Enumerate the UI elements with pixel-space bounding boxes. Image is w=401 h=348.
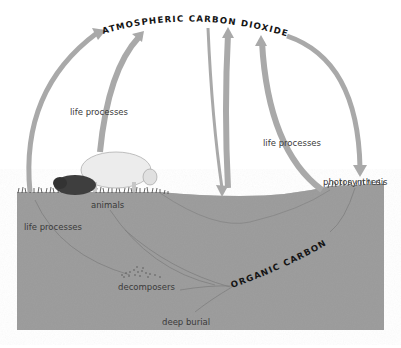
life-processes-label-top: life processes — [70, 107, 129, 117]
photosynthesis-label: photosynthesis — [323, 177, 388, 187]
arrow-to-photosynthesis — [287, 36, 360, 168]
arrow-up-3 — [262, 42, 322, 190]
deep-burial-label: deep burial — [162, 317, 210, 327]
arrow-down-1 — [208, 28, 222, 188]
carbon-cycle-diagram: ATMOSPHERIC CARBON DIOXIDE ORGANIC CARBO… — [0, 0, 401, 348]
animals-label: animals — [91, 200, 125, 210]
arrow-up-2 — [226, 34, 228, 188]
life-processes-label-ground: life processes — [24, 222, 83, 232]
life-processes-label-right: life processes — [263, 138, 322, 148]
decomposers-label: decomposers — [118, 282, 176, 292]
arrow-animals-up — [100, 37, 139, 152]
atmospheric-carbon-dioxide-label: ATMOSPHERIC CARBON DIOXIDE — [101, 13, 290, 38]
